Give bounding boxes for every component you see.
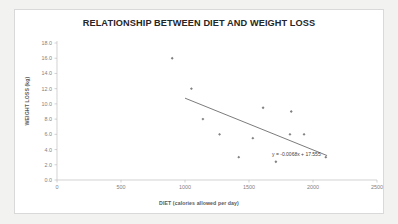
data-point: [237, 156, 240, 159]
data-point: [201, 118, 204, 121]
data-point: [274, 160, 277, 163]
data-point: [303, 133, 306, 136]
data-point: [218, 133, 221, 136]
data-point: [190, 87, 193, 90]
data-point: [251, 137, 254, 140]
data-point: [171, 57, 174, 60]
data-point: [289, 133, 292, 136]
chart-frame: RELATIONSHIP BETWEEN DIET AND WEIGHT LOS…: [14, 9, 384, 214]
data-point: [262, 106, 265, 109]
axes-group: [55, 41, 378, 183]
data-points-group: [171, 57, 328, 163]
trendline: [185, 98, 327, 155]
plot-svg: [15, 10, 383, 213]
chart-area[interactable]: RELATIONSHIP BETWEEN DIET AND WEIGHT LOS…: [15, 10, 383, 213]
screenshot-root: RELATIONSHIP BETWEEN DIET AND WEIGHT LOS…: [0, 0, 398, 224]
data-point: [290, 110, 293, 113]
data-point: [324, 156, 327, 159]
